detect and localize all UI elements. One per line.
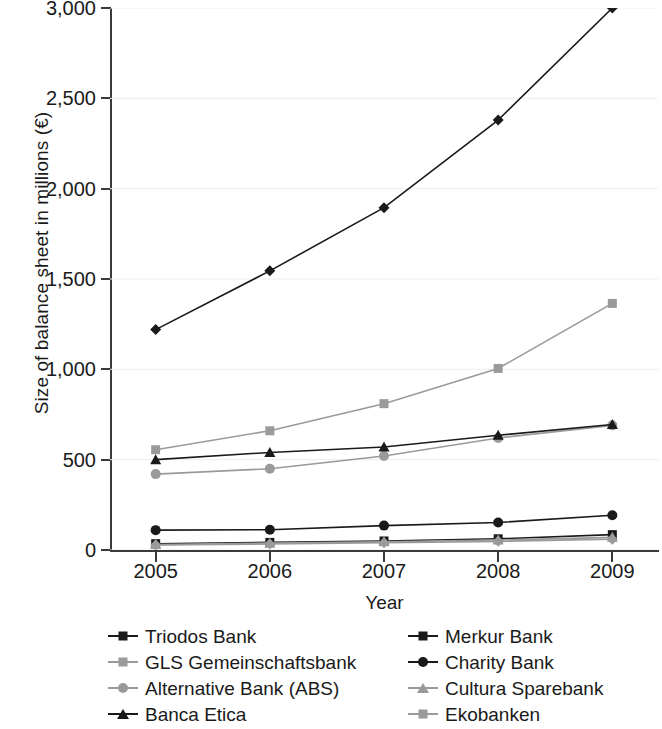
- line-chart-figure: Size of balance sheet in millions (€) 05…: [0, 0, 662, 729]
- x-tick-mark: [383, 552, 385, 562]
- legend-marker-diamond: [419, 710, 428, 719]
- y-tick-label: 0: [8, 539, 96, 562]
- x-tick-mark: [155, 552, 157, 562]
- legend-key-square-icon: [108, 655, 138, 669]
- legend-marker-square: [119, 658, 128, 667]
- data-point-square: [380, 399, 389, 408]
- x-axis-title: Year: [110, 592, 659, 614]
- legend-label: Merkur Bank: [445, 627, 553, 646]
- legend-key-triangle-icon: [408, 681, 438, 695]
- legend-marker-square: [419, 632, 428, 641]
- y-tick-label: 2,500: [8, 87, 96, 110]
- legend-marker-diamond: [119, 632, 128, 641]
- legend-key-diamond-icon: [408, 707, 438, 721]
- x-tick-label: 2009: [567, 560, 657, 583]
- legend-key-diamond-icon: [108, 629, 138, 643]
- x-tick-mark: [611, 552, 613, 562]
- data-point-diamond: [264, 265, 275, 276]
- data-point-circle: [493, 518, 503, 528]
- y-axis-title: Size of balance sheet in millions (€): [31, 53, 53, 473]
- plot-area: [110, 8, 658, 550]
- series-5: [151, 510, 618, 535]
- data-point-circle: [379, 451, 389, 461]
- data-point-circle: [265, 525, 275, 535]
- series-canvas: [110, 8, 658, 550]
- legend-key-triangle-icon: [108, 707, 138, 721]
- data-point-circle: [379, 521, 389, 531]
- x-tick-label: 2008: [453, 560, 543, 583]
- data-point-circle: [151, 469, 161, 479]
- x-tick-label: 2006: [225, 560, 315, 583]
- legend-item-0: Triodos Bank: [108, 627, 408, 646]
- legend-item-6: Banca Etica: [108, 705, 408, 724]
- legend-key-circle-icon: [108, 681, 138, 695]
- data-point-square: [608, 299, 617, 308]
- legend-key-circle-icon: [408, 655, 438, 669]
- legend-label: Charity Bank: [445, 653, 554, 672]
- x-tick-mark: [497, 552, 499, 562]
- data-point-circle: [265, 464, 275, 474]
- legend-marker-triangle: [117, 709, 129, 719]
- legend-key-square-icon: [408, 629, 438, 643]
- data-point-square: [265, 426, 274, 435]
- series-7: [150, 534, 618, 550]
- y-tick-label: 3,000: [8, 0, 96, 20]
- legend-label: Alternative Bank (ABS): [145, 679, 339, 698]
- x-tick-label: 2005: [111, 560, 201, 583]
- legend-item-3: Charity Bank: [408, 653, 662, 672]
- series-0: [150, 8, 618, 335]
- legend-item-7: Ekobanken: [408, 705, 662, 724]
- legend-label: Triodos Bank: [145, 627, 256, 646]
- y-tick-label: 1,500: [8, 268, 96, 291]
- legend-marker-triangle: [417, 683, 429, 693]
- legend-marker-circle: [118, 683, 128, 693]
- legend-label: GLS Gemeinschaftsbank: [145, 653, 356, 672]
- legend-label: Ekobanken: [445, 705, 540, 724]
- data-point-square: [151, 445, 160, 454]
- legend-label: Banca Etica: [145, 705, 246, 724]
- legend-marker-circle: [418, 657, 428, 667]
- y-tick-label: 1,000: [8, 358, 96, 381]
- legend-item-2: GLS Gemeinschaftsbank: [108, 653, 408, 672]
- data-point-circle: [151, 525, 161, 535]
- data-point-diamond: [150, 324, 161, 335]
- legend-item-5: Cultura Sparebank: [408, 679, 662, 698]
- legend-label: Cultura Sparebank: [445, 679, 603, 698]
- y-tick-label: 500: [8, 448, 96, 471]
- series-line: [156, 303, 613, 449]
- x-tick-label: 2007: [339, 560, 429, 583]
- data-point-square: [494, 364, 503, 373]
- x-tick-mark: [269, 552, 271, 562]
- chart-legend: Triodos BankMerkur BankGLS Gemeinschafts…: [108, 623, 662, 727]
- legend-item-1: Merkur Bank: [408, 627, 662, 646]
- y-tick-label: 2,000: [8, 177, 96, 200]
- legend-item-4: Alternative Bank (ABS): [108, 679, 408, 698]
- series-line: [156, 8, 613, 330]
- data-point-circle: [607, 510, 617, 520]
